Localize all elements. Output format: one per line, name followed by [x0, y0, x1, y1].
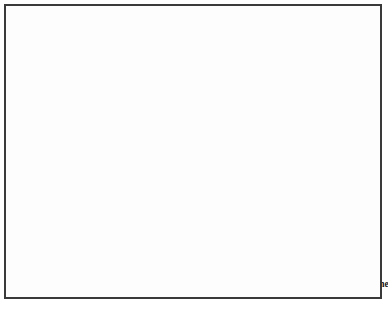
chart-frame-border [4, 4, 382, 299]
chart-container: 050100150200250300 200420052006200720082… [0, 0, 388, 312]
